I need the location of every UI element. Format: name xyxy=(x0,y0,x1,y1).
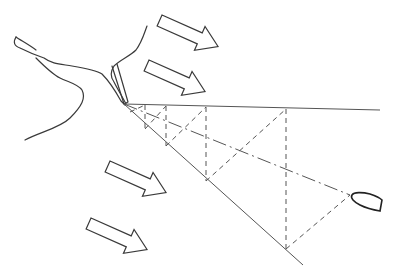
diagonal-dash-3 xyxy=(206,109,286,181)
upper-bearing-line xyxy=(124,104,380,110)
diagonal-dash-0 xyxy=(130,105,145,112)
coastline-lower xyxy=(25,58,84,140)
arrow-icon xyxy=(141,54,210,104)
current-arrow-4 xyxy=(83,212,152,262)
current-arrow-1 xyxy=(154,9,223,59)
bearing-lines xyxy=(124,104,380,265)
perpendicular-lines xyxy=(145,105,286,249)
diagonal-dash-4 xyxy=(286,195,350,249)
nautical-diagram xyxy=(0,0,394,277)
arrow-icon xyxy=(83,212,152,262)
construction-lines xyxy=(130,105,350,249)
coastline xyxy=(14,26,147,140)
diagonal-dash-2 xyxy=(166,107,206,146)
current-arrow-2 xyxy=(141,54,210,104)
boat-icon xyxy=(351,193,382,211)
arrow-icon xyxy=(102,155,171,205)
arrow-icon xyxy=(154,9,223,59)
current-arrow-3 xyxy=(102,155,171,205)
coastline-left xyxy=(14,37,125,105)
diagonal-dash-1 xyxy=(145,106,166,129)
